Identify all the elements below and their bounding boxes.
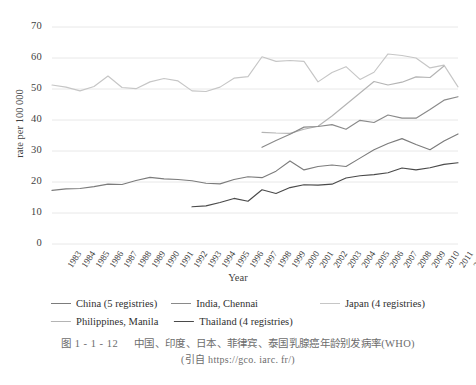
legend-line-swatch xyxy=(51,321,71,322)
series-line xyxy=(52,54,458,92)
legend-line-swatch xyxy=(171,303,191,304)
series-line xyxy=(262,66,444,133)
series-line xyxy=(192,163,458,207)
series-lines xyxy=(52,54,458,207)
series-line xyxy=(262,97,458,148)
legend-row-2: Philippines, ManilaThailand (4 registrie… xyxy=(0,312,410,330)
y-axis-title: rate per 100 000 xyxy=(14,74,25,174)
legend-line-swatch xyxy=(51,303,71,304)
caption-title: 中国、印度、日本、菲律宾、泰国乳腺癌年龄别发病率(WHO) xyxy=(134,338,415,349)
legend-label: Japan (4 registries) xyxy=(345,298,425,309)
x-axis-title: Year xyxy=(0,272,476,283)
chart-legend: China (5 registries)India, ChennaiJapan … xyxy=(0,294,476,332)
chart-area: 706050403020100 198319841985198619871988… xyxy=(0,0,476,292)
legend-label: China (5 registries) xyxy=(76,298,157,309)
legend-item[interactable]: Thailand (4 registries) xyxy=(174,316,292,327)
legend-line-swatch xyxy=(174,321,194,322)
legend-item[interactable]: India, Chennai xyxy=(171,298,258,309)
caption-line-title: 图 1 - 1 - 12 中国、印度、日本、菲律宾、泰国乳腺癌年龄别发病率(WH… xyxy=(0,336,476,352)
figure-caption: 图 1 - 1 - 12 中国、印度、日本、菲律宾、泰国乳腺癌年龄别发病率(WH… xyxy=(0,336,476,367)
y-tick-label: 10 xyxy=(18,206,42,217)
line-chart-plot xyxy=(0,0,476,292)
y-tick-label: 20 xyxy=(18,175,42,186)
y-tick-label: 70 xyxy=(18,20,42,31)
caption-source: (引自 https://gco. iarc. fr/) xyxy=(0,352,476,367)
y-tick-label: 60 xyxy=(18,51,42,62)
legend-label: Philippines, Manila xyxy=(76,316,158,327)
legend-label: Thailand (4 registries) xyxy=(199,316,292,327)
gridlines xyxy=(52,27,458,244)
legend-item[interactable]: China (5 registries) xyxy=(51,298,157,309)
legend-item[interactable]: Japan (4 registries) xyxy=(320,298,425,309)
legend-item[interactable]: Philippines, Manila xyxy=(51,316,158,327)
figure-breast-cancer-incidence: 706050403020100 198319841985198619871988… xyxy=(0,0,476,385)
legend-row-1: China (5 registries)India, ChennaiJapan … xyxy=(0,294,476,312)
legend-label: India, Chennai xyxy=(196,298,258,309)
legend-line-swatch xyxy=(320,303,340,304)
y-tick-label: 0 xyxy=(18,237,42,248)
figure-number: 图 1 - 1 - 12 xyxy=(61,338,118,349)
